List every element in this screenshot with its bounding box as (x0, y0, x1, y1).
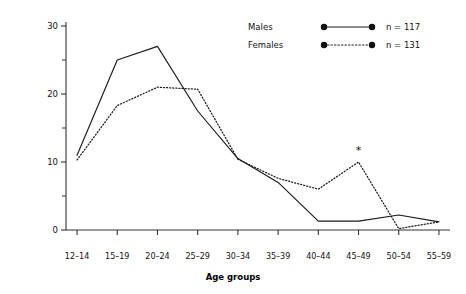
x-tick-label: 25–29 (185, 252, 209, 261)
axis-lines (66, 22, 450, 230)
legend-n-females: n = 131 (386, 40, 420, 50)
y-axis-ticks (61, 26, 66, 230)
series-line-females (77, 87, 439, 228)
x-tick-label: 12–14 (65, 252, 89, 261)
series-line-males (77, 46, 439, 221)
legend-swatch-females (318, 38, 378, 52)
x-tick-label: 45–49 (346, 252, 370, 261)
legend-swatch-males (318, 20, 378, 34)
x-tick-label: 15–19 (105, 252, 129, 261)
data-series-layer (77, 46, 439, 228)
x-tick-label: 20–24 (145, 252, 169, 261)
x-tick-label: 30–34 (226, 252, 250, 261)
chart-figure: Percentage of total onsets per 5-year ag… (0, 0, 466, 294)
legend-label-females: Females (248, 40, 283, 50)
significance-asterisk: * (356, 145, 362, 156)
x-tick-label: 50–54 (387, 252, 411, 261)
x-tick-label: 35–39 (266, 252, 290, 261)
legend-n-males-text: n = 117 (386, 22, 420, 32)
x-axis-ticks (77, 230, 439, 235)
y-tick-label: 30 (36, 21, 58, 31)
x-tick-label: 40–44 (306, 252, 330, 261)
x-axis-title: Age groups (0, 272, 466, 282)
legend-n-females-text: n = 131 (386, 40, 420, 50)
y-tick-label: 10 (36, 157, 58, 167)
y-tick-label: 20 (36, 89, 58, 99)
y-tick-label: 0 (36, 225, 58, 235)
x-tick-label: 55–59 (427, 252, 451, 261)
legend-n-males: n = 117 (386, 22, 420, 32)
legend-label-males: Males (248, 22, 273, 32)
